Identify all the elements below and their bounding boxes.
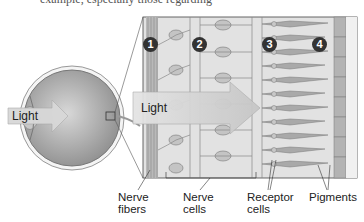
label-nerve-fibers: Nerve fibers: [118, 191, 149, 215]
marker-4: 4: [312, 37, 327, 52]
label-nerve-cells: Nerve cells: [183, 191, 214, 215]
retina-diagram: [0, 0, 364, 222]
marker-2: 2: [192, 37, 207, 52]
label-receptor-cells: Receptor cells: [247, 191, 294, 215]
eye-light-label: Light: [12, 109, 38, 123]
marker-3: 3: [262, 37, 277, 52]
marker-1: 1: [143, 37, 158, 52]
zoom-line-bottom: [115, 120, 143, 178]
retina-light-label: Light: [141, 101, 167, 115]
label-pigments: Pigments: [309, 191, 357, 203]
